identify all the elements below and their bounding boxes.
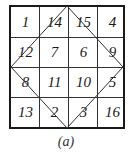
diamond-overlay	[9, 5, 125, 129]
figure-caption: (a)	[0, 134, 132, 150]
